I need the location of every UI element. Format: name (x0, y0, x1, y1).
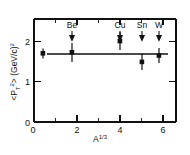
x-axis-ticks-minor (56, 19, 142, 122)
y-axis-title-sub: T (15, 86, 21, 90)
target-arrow-head-be (70, 36, 74, 41)
target-arrow-head-w (157, 36, 161, 41)
marker-cu (118, 39, 123, 44)
marker-be (70, 50, 75, 55)
ytick-label-1: 1 (25, 77, 30, 87)
svg-text:A1/3: A1/3 (93, 134, 108, 145)
xtick-label-4: 4 (117, 125, 122, 135)
y-axis-tick-labels: 0 1 2 (25, 37, 30, 128)
xtick-label-0: 0 (30, 125, 35, 135)
x-axis-title-exponent: 1/3 (99, 134, 108, 140)
svg-text:<PT2> (GeV/c)2: <PT2> (GeV/c)2 (9, 43, 21, 101)
target-arrow-head-sn (140, 36, 144, 41)
target-label-sn: Sn (137, 20, 148, 30)
y-axis-ticks (34, 41, 176, 122)
xtick-label-2: 2 (74, 125, 79, 135)
ytick-label-2: 2 (25, 37, 30, 47)
marker-sn (140, 60, 145, 65)
target-marker-be: Be (67, 20, 78, 41)
target-label-cu: Cu (115, 20, 126, 30)
ytick-label-0: 0 (25, 118, 30, 128)
y-axis-title-open: <P (9, 90, 19, 101)
marker-h (41, 51, 46, 56)
x-axis-ticks-major (34, 19, 163, 122)
x-axis-title: A1/3 (93, 134, 108, 145)
target-markers: Be Cu Sn W (67, 20, 163, 41)
y-axis-title-close: > (GeV/c) (9, 46, 19, 83)
target-label-be: Be (67, 20, 78, 30)
data-point-be (70, 43, 75, 62)
scatter-plot: 0 1 2 0 2 4 6 (0, 0, 190, 155)
data-point-w (157, 48, 162, 63)
target-marker-sn: Sn (137, 20, 148, 41)
xtick-label-6: 6 (160, 125, 165, 135)
target-label-w: W (155, 20, 163, 30)
data-point-h (41, 49, 46, 59)
target-marker-w: W (155, 20, 163, 41)
plot-frame (34, 19, 176, 122)
y-axis-title: <PT2> (GeV/c)2 (9, 43, 21, 101)
marker-w (157, 53, 162, 58)
figure-container: 0 1 2 0 2 4 6 (0, 0, 190, 155)
data-point-sn (140, 54, 145, 71)
y-axis-title-unit-sup: 2 (9, 43, 15, 47)
data-point-cu (118, 32, 123, 50)
